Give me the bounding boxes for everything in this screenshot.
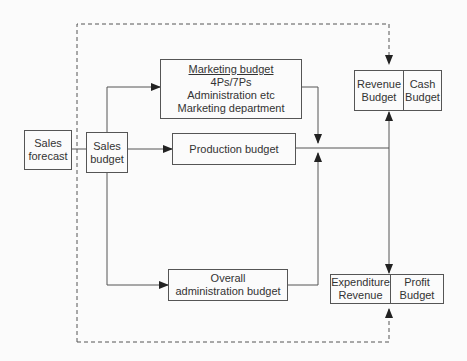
sales-budget-label-2: budget xyxy=(90,153,124,166)
sales-forecast-label-2: forecast xyxy=(28,150,67,163)
revenue-budget-cell: Revenue Budget xyxy=(355,71,403,110)
admin-budget-box: Overall administration budget xyxy=(168,269,288,301)
cash-budget-cell: Cash Budget xyxy=(403,71,441,110)
dashed-boundary-bottom xyxy=(77,309,389,342)
admin-up-arrow xyxy=(287,153,318,285)
revenue-budget-label-1: Revenue xyxy=(357,78,401,91)
revenue-label: Revenue xyxy=(338,289,382,302)
profit-budget-cell: Profit Budget xyxy=(390,275,443,303)
admin-budget-label-1: Overall xyxy=(211,272,246,285)
cash-budget-label-1: Cash xyxy=(410,78,436,91)
sales-to-admin-arrow xyxy=(107,172,168,285)
expenditure-label: Expenditure xyxy=(331,276,390,289)
revenue-cash-budget-box: Revenue Budget Cash Budget xyxy=(354,70,442,111)
sales-budget-box: Sales budget xyxy=(86,132,128,173)
marketing-line-dept: Marketing department xyxy=(178,102,285,115)
profit-budget-label-1: Profit xyxy=(404,276,430,289)
sales-to-marketing-arrow xyxy=(107,87,160,132)
sales-forecast-label-1: Sales xyxy=(34,137,62,150)
sales-budget-label-1: Sales xyxy=(93,140,121,153)
profit-budget-label-2: Budget xyxy=(400,289,435,302)
marketing-line-admin: Administration etc xyxy=(187,89,274,102)
expenditure-profit-budget-box: Expenditure Revenue Profit Budget xyxy=(330,274,444,304)
revenue-budget-label-2: Budget xyxy=(362,91,397,104)
production-budget-box: Production budget xyxy=(172,133,296,165)
connector-lines xyxy=(0,0,467,361)
production-budget-label: Production budget xyxy=(189,143,278,156)
cash-budget-label-2: Budget xyxy=(405,91,440,104)
marketing-down-arrow xyxy=(301,87,318,143)
expenditure-revenue-cell: Expenditure Revenue xyxy=(331,275,390,303)
marketing-line-4ps: 4Ps/7Ps xyxy=(211,76,252,89)
budget-flow-diagram: Sales forecast Sales budget Marketing bu… xyxy=(0,0,467,361)
marketing-budget-box: Marketing budget 4Ps/7Ps Administration … xyxy=(160,59,302,119)
marketing-budget-title: Marketing budget xyxy=(189,63,274,76)
sales-forecast-box: Sales forecast xyxy=(24,130,72,170)
admin-budget-label-2: administration budget xyxy=(175,285,280,298)
